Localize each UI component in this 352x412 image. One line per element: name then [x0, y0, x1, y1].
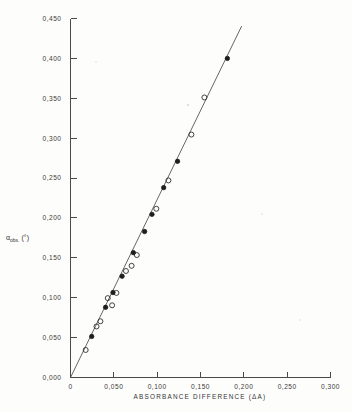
y-tick-label: 0,350 — [42, 95, 61, 102]
data-point-filled — [142, 229, 146, 233]
data-point-filled — [150, 212, 154, 216]
y-axis-units: (°) — [22, 234, 29, 242]
data-point-filled — [120, 274, 124, 278]
y-tick-label: 0,200 — [42, 214, 61, 221]
figure-canvas: 0,0000,0500,1000,1500,2000,2500,3000,350… — [0, 0, 352, 412]
y-axis-subscript: obs. — [10, 237, 19, 243]
data-point-open — [123, 268, 128, 273]
fit-line — [71, 26, 242, 377]
y-axis-title: αobs.(°) — [6, 234, 29, 243]
y-tick-label: 0,150 — [42, 254, 61, 261]
data-point-filled — [225, 56, 229, 60]
x-axis-title: ABSORBANCE DIFFERENCE (ΔA) — [134, 393, 267, 401]
data-point-filled — [161, 185, 165, 189]
x-tick-label: 0,100 — [148, 383, 167, 390]
y-tick-label: 0,000 — [42, 374, 61, 381]
data-point-open — [189, 132, 194, 137]
y-tick-label: 0,050 — [42, 334, 61, 341]
x-tick-label: 0 — [68, 383, 72, 390]
x-tick-label: 0,300 — [321, 383, 340, 390]
x-tick-label: 0,200 — [234, 383, 253, 390]
data-point-open — [154, 206, 159, 211]
data-point-open — [98, 319, 103, 324]
x-tick-label: 0,250 — [278, 383, 297, 390]
data-point-open — [129, 263, 134, 268]
regression-line — [71, 26, 242, 377]
calibration-scatter-plot: 0,0000,0500,1000,1500,2000,2500,3000,350… — [0, 0, 352, 412]
axes — [71, 19, 331, 378]
y-tick-label: 0,250 — [42, 174, 61, 181]
data-point-filled — [175, 159, 179, 163]
paper-specks — [95, 61, 300, 320]
y-tick-label: 0,450 — [42, 15, 61, 22]
data-point-filled — [90, 334, 94, 338]
data-point-open — [202, 95, 207, 100]
y-tick-label: 0,100 — [42, 294, 61, 301]
axis-ticks — [71, 19, 331, 378]
x-axis-title-group: ABSORBANCE DIFFERENCE (ΔA) — [134, 393, 267, 401]
data-point-filled — [131, 250, 135, 254]
data-points — [83, 56, 229, 352]
x-tick-label: 0,150 — [191, 383, 210, 390]
y-tick-label: 0,300 — [42, 135, 61, 142]
axis-tick-labels: 0,0000,0500,1000,1500,2000,2500,3000,350… — [42, 15, 340, 390]
data-point-open — [110, 303, 115, 308]
y-axis-title-group: αobs.(°) — [6, 234, 29, 243]
x-tick-label: 0,050 — [104, 383, 123, 390]
y-tick-label: 0,400 — [42, 55, 61, 62]
data-point-filled — [111, 290, 115, 294]
data-point-filled — [103, 305, 107, 309]
